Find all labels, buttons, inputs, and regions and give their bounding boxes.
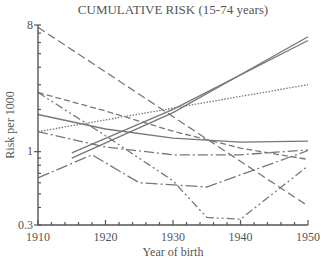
- y-tick-8: 8: [27, 18, 33, 32]
- x-tick-1930: 1930: [161, 230, 185, 244]
- x-axis: 1910 1920 1930 1940 1950 Year of birth: [26, 220, 320, 259]
- series-double-solid-a: [72, 37, 308, 158]
- series-long-dash: [38, 27, 308, 206]
- y-tick-1: 1: [27, 144, 33, 158]
- series-dash-dot-dot: [38, 93, 308, 220]
- y-axis-label: Risk per 1000: [3, 91, 17, 158]
- chart: CUMULATIVE RISK (15-74 years) 8 1 0.3 Ri…: [0, 0, 321, 260]
- series-dash-dot-upper: [38, 132, 308, 155]
- y-axis: 8 1 0.3 Risk per 1000: [3, 18, 41, 232]
- series-long-dash-dot-lower: [38, 151, 308, 188]
- x-tick-1940: 1940: [229, 230, 253, 244]
- chart-title: CUMULATIVE RISK (15-74 years): [78, 2, 268, 17]
- x-tick-1920: 1920: [94, 230, 118, 244]
- x-axis-label: Year of birth: [143, 245, 204, 259]
- x-tick-1950: 1950: [296, 230, 320, 244]
- x-tick-1910: 1910: [26, 230, 50, 244]
- plot-lines: [38, 27, 308, 219]
- series-dotted: [38, 85, 308, 132]
